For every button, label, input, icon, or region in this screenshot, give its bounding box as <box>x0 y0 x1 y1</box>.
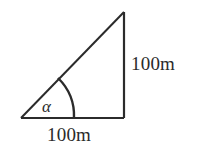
triangle-graphic <box>0 0 197 149</box>
horizontal-side-label: 100m <box>47 125 91 144</box>
angle-alpha-label: α <box>42 98 51 115</box>
triangle-diagram: 100m 100m α <box>0 0 197 149</box>
angle-arc <box>58 78 74 118</box>
vertical-side-label: 100m <box>131 54 175 73</box>
